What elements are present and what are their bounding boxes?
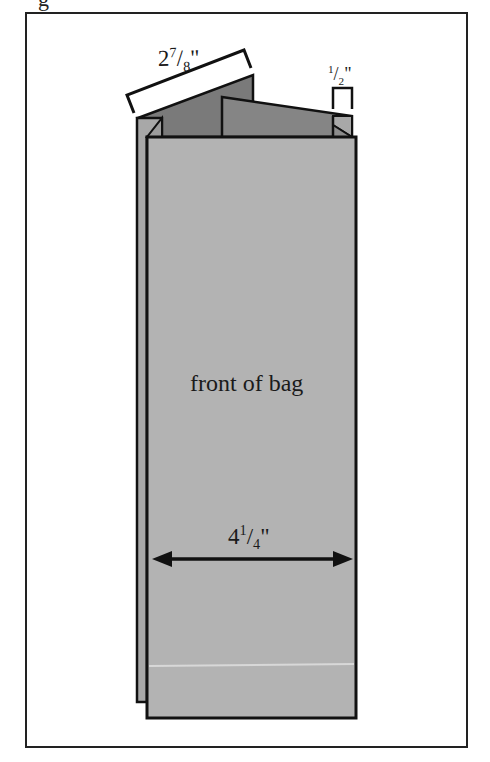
- width-dimension-label: 41/4": [228, 522, 270, 553]
- gusset-dimension-bracket: [333, 88, 352, 109]
- front-of-bag-label: front of bag: [190, 370, 303, 397]
- top-dimension-label: 27/8": [158, 44, 200, 76]
- front-panel: [147, 137, 356, 718]
- gusset-dimension-label: 1/2": [328, 63, 352, 87]
